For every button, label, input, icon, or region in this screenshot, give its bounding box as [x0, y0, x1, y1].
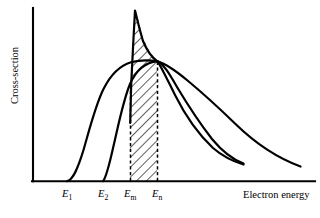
figure-container: E1 E2 Em En Electron energy Cross-sectio…	[0, 0, 320, 218]
tick-label-e1-sub: 1	[68, 193, 72, 202]
tick-label-e2: E2	[98, 189, 108, 200]
tick-label-en-sub: n	[158, 193, 162, 202]
tick-label-em: Em	[124, 189, 136, 200]
y-axis-title: Cross-section	[9, 31, 20, 121]
tick-label-en: En	[152, 189, 162, 200]
chart-plot-area	[0, 0, 320, 218]
tick-label-e1: E1	[62, 189, 72, 200]
curve-broad-onset-e2	[103, 61, 244, 181]
axes-group	[32, 8, 315, 181]
x-axis-title: Electron energy	[243, 189, 310, 200]
tick-label-e2-sub: 2	[104, 193, 108, 202]
curve-broad-onset-e1	[67, 60, 301, 181]
tick-label-em-sub: m	[130, 193, 136, 202]
